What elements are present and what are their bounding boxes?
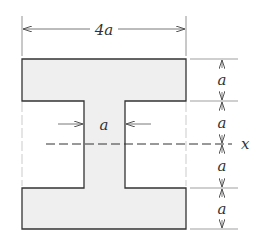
lower-web-label: a [218,157,227,175]
axis-label: x [241,135,250,153]
top-flange-label: a [218,71,227,89]
web-width-label: a [100,116,109,134]
width-label: 4a [94,21,114,39]
i-beam-diagram: 4a a x a a a a [0,0,261,242]
bottom-flange-label: a [218,200,227,218]
upper-web-label: a [218,114,227,132]
